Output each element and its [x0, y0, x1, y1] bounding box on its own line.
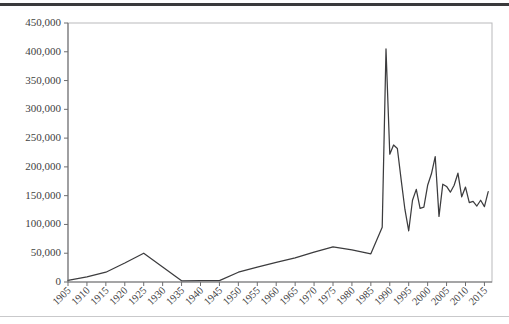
- y-tick-label: 150,000: [25, 189, 61, 201]
- x-tick-label: 1985: [353, 285, 376, 308]
- x-tick-label: 1965: [277, 285, 300, 308]
- plot-area-frame: [68, 23, 492, 282]
- x-tick-label: 1980: [334, 285, 357, 308]
- top-divider-rule: [0, 3, 509, 6]
- x-tick-label: 1930: [145, 285, 168, 308]
- y-tick-label: 200,000: [25, 160, 61, 172]
- y-tick-label: 0: [56, 275, 62, 287]
- x-tick-label: 2005: [429, 285, 452, 308]
- x-tick-label: 1915: [88, 285, 111, 308]
- bottom-divider-rule: [0, 316, 509, 317]
- x-tick-label: 1945: [202, 285, 225, 308]
- x-tick-label: 1975: [315, 285, 338, 308]
- x-tick-label: 1955: [240, 285, 263, 308]
- chart-page: 050,000100,000150,000200,000250,000300,0…: [0, 0, 509, 324]
- y-tick-label: 250,000: [25, 131, 61, 143]
- line-chart: 050,000100,000150,000200,000250,000300,0…: [0, 8, 509, 318]
- x-tick-label: 1950: [221, 285, 244, 308]
- y-tick-label: 450,000: [25, 16, 61, 28]
- x-tick-label: 2015: [467, 285, 490, 308]
- chart-svg: 050,000100,000150,000200,000250,000300,0…: [0, 8, 509, 318]
- y-tick-label: 100,000: [25, 217, 61, 229]
- x-tick-label: 1925: [126, 285, 149, 308]
- y-tick-label: 400,000: [25, 45, 61, 57]
- x-tick-label: 1920: [107, 285, 130, 308]
- y-tick-label: 350,000: [25, 74, 61, 86]
- x-tick-label: 1905: [50, 285, 73, 308]
- y-axis-ticks: 050,000100,000150,000200,000250,000300,0…: [25, 16, 68, 287]
- y-tick-label: 50,000: [31, 246, 62, 258]
- x-tick-label: 1940: [183, 285, 206, 308]
- x-tick-label: 2010: [448, 285, 471, 308]
- x-tick-label: 2000: [410, 285, 433, 308]
- y-tick-label: 300,000: [25, 102, 61, 114]
- x-tick-label: 1970: [296, 285, 319, 308]
- x-tick-label: 1960: [259, 285, 282, 308]
- x-tick-label: 1995: [391, 285, 414, 308]
- x-tick-label: 1910: [69, 285, 92, 308]
- x-tick-label: 1990: [372, 285, 395, 308]
- x-axis-ticks: 1905191019151920192519301935194019451950…: [50, 282, 489, 307]
- x-tick-label: 1935: [164, 285, 187, 308]
